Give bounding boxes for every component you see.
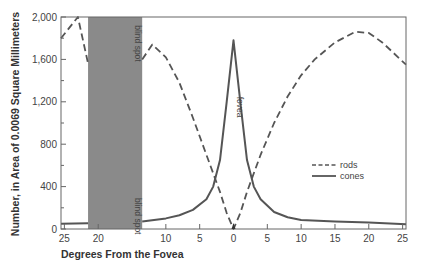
x-tick-label: 15	[329, 233, 341, 244]
x-tick-label: 25	[397, 233, 409, 244]
x-tick-label: 20	[363, 233, 375, 244]
x-tick-label: 25	[59, 233, 71, 244]
x-axis-title: Degrees From the Fovea	[61, 248, 184, 260]
legend-label-rods: rods	[340, 160, 358, 170]
cones-line	[61, 223, 88, 224]
cones-line	[142, 40, 406, 224]
x-tick-label: 5	[197, 233, 203, 244]
rods-line	[142, 32, 406, 229]
x-tick-label: 5	[265, 233, 271, 244]
y-tick-label: 2,000	[32, 12, 57, 23]
fovea-label: fovea	[235, 97, 245, 118]
x-tick-label: 10	[160, 233, 172, 244]
rods-line	[61, 17, 88, 64]
plot-area: blind spotblind spotfovea	[61, 17, 406, 235]
y-tick-label: 800	[40, 139, 57, 150]
x-tick-label: 20	[93, 233, 105, 244]
x-tick-label: 0	[231, 233, 237, 244]
retina-density-chart: blind spotblind spotfovea 04008001,2001,…	[0, 0, 427, 267]
legend: rods cones	[312, 160, 365, 181]
legend-item-cones: cones	[312, 171, 365, 181]
y-tick-label: 1,600	[32, 54, 57, 65]
x-tick-label: 10	[296, 233, 308, 244]
blind-spot-label: blind spot	[133, 198, 143, 235]
y-tick-label: 0	[51, 224, 57, 235]
legend-label-cones: cones	[340, 171, 365, 181]
blind-spot-label: blind spot	[133, 25, 143, 62]
y-tick-label: 1,200	[32, 96, 57, 107]
y-tick-label: 400	[40, 181, 57, 192]
legend-item-rods: rods	[312, 160, 358, 170]
y-axis-title: Number, in Area of 0.0069 Square Millime…	[9, 12, 21, 236]
